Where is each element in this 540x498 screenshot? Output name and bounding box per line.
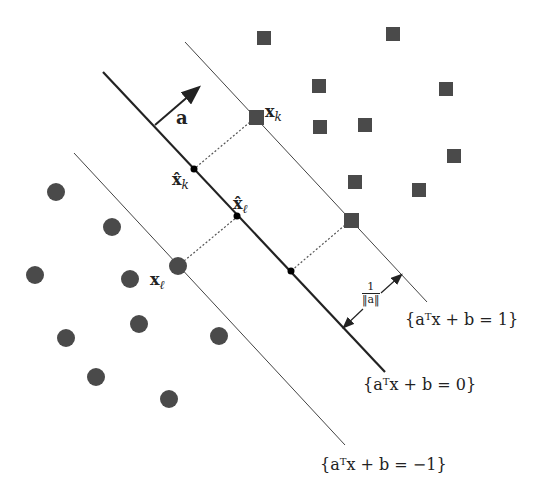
xhat-l-label: x̂ℓ (233, 194, 248, 217)
equation-plus-one: {aᵀx + b = 1} (405, 310, 518, 329)
hyperplane-plus-one-line (185, 42, 427, 302)
xhat-k-subscript: k (182, 178, 189, 192)
xhat-k-symbol: x̂ (172, 170, 182, 189)
projection-xk (194, 117, 256, 169)
fraction-denominator: ‖a‖ (362, 294, 380, 306)
xhat-k-label: x̂k (172, 170, 189, 192)
xhat-l-subscript: ℓ (243, 202, 248, 216)
xk-subscript: k (275, 110, 282, 124)
equation-zero: {aᵀx + b = 0} (363, 375, 476, 394)
margin-arrow-down (344, 309, 363, 327)
xhat-l-symbol: x̂ (233, 194, 243, 213)
svm-diagram-canvas (0, 0, 540, 498)
margin-fraction: 1 ‖a‖ (362, 281, 380, 306)
negative-class-points (26, 183, 228, 408)
xl-symbol: x (150, 270, 160, 289)
equation-minus-one: {aᵀx + b = −1} (320, 455, 447, 474)
xk-label: xk (265, 102, 282, 124)
margin-arrow-up (381, 275, 401, 293)
xl-subscript: ℓ (160, 278, 165, 292)
projection-xl (178, 217, 237, 266)
normal-vector-label: a (176, 107, 188, 128)
projection-right (291, 220, 351, 271)
xl-label: xℓ (150, 270, 165, 293)
hyperplane-minus-one-line (74, 153, 345, 445)
xk-symbol: x (265, 102, 275, 121)
positive-class-points (249, 27, 461, 228)
